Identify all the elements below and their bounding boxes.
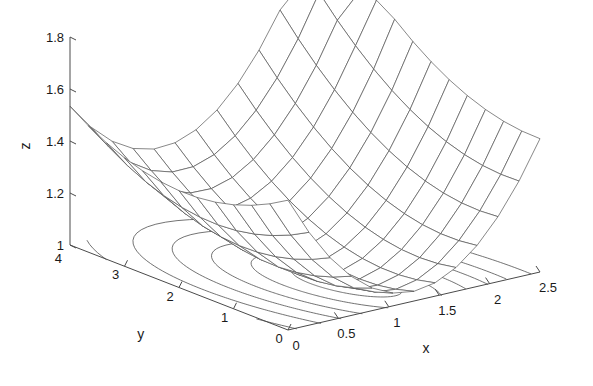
z-tick-mark [70,141,76,144]
z-tick-mark [70,193,76,196]
x-tick-label: 1.5 [438,303,456,318]
y-axis-label: y [137,326,144,342]
x-tick-mark [536,266,540,272]
y-tick-label: 4 [55,251,62,266]
z-tick-label: 1.8 [46,30,64,45]
x-tick-mark [385,301,389,307]
y-tick-label: 2 [166,289,173,304]
y-tick-label: 1 [221,310,228,325]
y-tick-mark [125,260,128,266]
z-tick-mark [70,37,76,40]
mesh-surface-group [70,0,540,293]
z-tick-label: 1.6 [46,82,64,97]
z-tick-label: 1.4 [46,134,64,149]
y-tick-label: 0 [275,331,282,346]
z-axis-label: z [17,143,33,150]
x-tick-mark [486,278,490,284]
y-tick-label: 3 [112,267,119,282]
plot-canvas: 11.21.41.61.80123400.511.522.5zyx [0,0,593,386]
x-axis-label: x [423,340,430,356]
y-tick-mark [234,303,237,309]
x-tick-label: 2 [494,292,501,307]
x-tick-label: 1 [393,315,400,330]
x-tick-label: 0 [292,338,299,353]
surface-plot-figure: 11.21.41.61.80123400.511.522.5zyx [0,0,593,386]
z-tick-label: 1.2 [46,186,64,201]
x-tick-label: 0.5 [337,326,355,341]
y-tick-mark [179,282,182,288]
x-tick-label: 2.5 [539,280,557,295]
z-tick-mark [70,89,76,92]
